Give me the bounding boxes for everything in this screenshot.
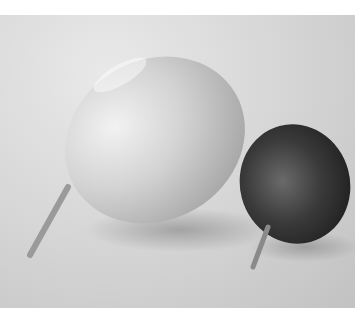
large-fruit-stem: [30, 187, 68, 255]
fruit-photo: [0, 15, 355, 308]
photo-scene: [0, 15, 355, 308]
